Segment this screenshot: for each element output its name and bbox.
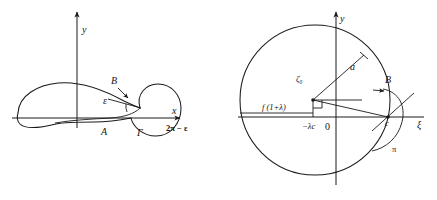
- left-x-axis-label: x: [171, 105, 177, 116]
- center-point-dot: [311, 98, 315, 102]
- point-b-label-right: B: [385, 74, 391, 85]
- xi-axis-label: ξ: [417, 119, 422, 131]
- figure-svg: y x A Γ B ε 2π − ε: [0, 0, 437, 200]
- point-c-label-right: c: [385, 118, 389, 128]
- airfoil-outline: [17, 83, 181, 136]
- center-to-c-line: [313, 100, 388, 117]
- point-b-label: B: [111, 75, 117, 86]
- left-y-axis-label: y: [81, 24, 87, 35]
- radius-a-line: [313, 55, 364, 100]
- two-pi-minus-epsilon-label: 2π − ε: [166, 123, 188, 133]
- b-pointer-arrow: [118, 88, 128, 98]
- camber-line: [55, 108, 140, 123]
- b-pointer-arrow-right: [373, 90, 384, 91]
- pi-angle-label: π: [392, 144, 397, 154]
- point-gamma-label: Γ: [136, 127, 143, 138]
- center-zeta0-label: ζ₀: [296, 74, 302, 84]
- right-y-axis-label: y: [339, 13, 345, 24]
- point-a-label: A: [100, 126, 108, 137]
- right-panel-circle: y ξ a ζ₀ f (1+λ) −λc 0 c B π: [238, 12, 424, 185]
- chord-f-label: f (1+λ): [262, 102, 286, 112]
- origin-label: 0: [325, 121, 330, 132]
- minus-lambda-c-label: −λc: [302, 121, 315, 131]
- terminal-ray: [372, 93, 414, 131]
- radius-a-label: a: [350, 61, 355, 72]
- figure-root: y x A Γ B ε 2π − ε: [0, 0, 437, 200]
- left-panel-airfoil: y x A Γ B ε 2π − ε: [12, 12, 188, 138]
- epsilon-ray: [108, 99, 141, 108]
- epsilon-label: ε: [103, 95, 107, 106]
- epsilon-angle-arc: [126, 104, 127, 112]
